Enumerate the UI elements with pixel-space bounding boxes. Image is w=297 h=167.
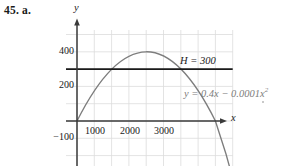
y-tick-label-400: 400	[36, 45, 74, 56]
x-tick-label-2000: 2000	[111, 125, 149, 136]
x-axis-label: x	[231, 112, 236, 123]
y-axis-label: y	[74, 2, 79, 13]
curve-equation-annotation: y = 0.4x − 0.0001x2	[184, 86, 268, 99]
x-tick-label-3000: 3000	[145, 125, 183, 136]
y-tick-label-200: 200	[36, 79, 74, 90]
y-axis	[74, 19, 80, 167]
scan-artifact-speck	[262, 101, 264, 103]
x-tick-label-1000: 1000	[76, 125, 114, 136]
curve-equation-exponent: 2	[265, 86, 269, 94]
curve-equation-text: y = 0.4x − 0.0001x	[184, 88, 265, 99]
y-tick-label-minus-100: −100	[30, 131, 74, 142]
figure-panel: 45. a.	[0, 0, 297, 166]
h-line-annotation: H = 300	[180, 55, 216, 66]
